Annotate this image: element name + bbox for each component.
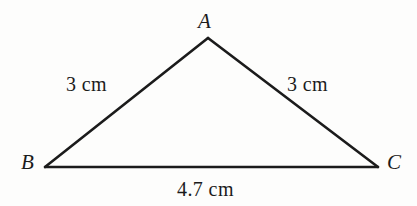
triangle-figure: A B C 3 cm 3 cm 4.7 cm	[0, 0, 417, 206]
vertex-label-c: C	[387, 152, 401, 173]
side-length-label-ab: 3 cm	[66, 74, 107, 94]
triangle-edge-ac	[208, 38, 378, 167]
triangle-edge-ab	[45, 38, 208, 167]
vertex-label-b: B	[21, 152, 34, 173]
vertex-label-a: A	[198, 11, 211, 32]
side-length-label-bc: 4.7 cm	[177, 179, 234, 199]
side-length-label-ac: 3 cm	[287, 74, 328, 94]
